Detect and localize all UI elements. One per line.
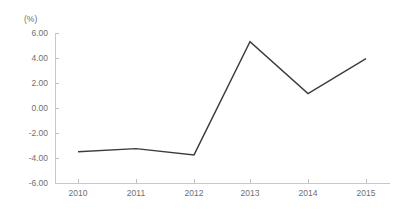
y-axis-unit-label: (%): [24, 14, 37, 24]
x-axis-tick-label: 2011: [127, 188, 146, 198]
data-series-line: [78, 42, 366, 155]
y-axis-tick-marks: [55, 33, 59, 183]
line-chart: (%) 6.004.002.000.00-2.00-4.00-6.00 2010…: [0, 0, 401, 219]
y-axis-tick-labels: 6.004.002.000.00-2.00-4.00-6.00: [29, 28, 49, 188]
x-axis-tick-marks: [78, 179, 366, 183]
y-axis-tick-label: -6.00: [29, 178, 49, 188]
y-axis-tick-label: 0.00: [31, 103, 48, 113]
x-axis-tick-labels: 201020112012201320142015: [69, 188, 376, 198]
x-axis-tick-label: 2010: [69, 188, 88, 198]
x-axis-tick-label: 2014: [299, 188, 318, 198]
chart-canvas: (%) 6.004.002.000.00-2.00-4.00-6.00 2010…: [0, 0, 401, 219]
x-axis-tick-label: 2015: [357, 188, 376, 198]
x-axis-tick-label: 2012: [185, 188, 204, 198]
y-axis-tick-label: -2.00: [29, 128, 49, 138]
y-axis-tick-label: 4.00: [31, 53, 48, 63]
y-axis-tick-label: 2.00: [31, 78, 48, 88]
x-axis-tick-label: 2013: [241, 188, 260, 198]
y-axis-tick-label: -4.00: [29, 153, 49, 163]
y-axis-tick-label: 6.00: [31, 28, 48, 38]
